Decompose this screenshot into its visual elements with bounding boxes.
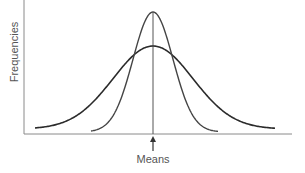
y-axis-label: Frequencies [8, 10, 20, 94]
wide-curve [35, 46, 275, 128]
narrow-curve [91, 12, 218, 131]
chart-canvas [0, 0, 305, 173]
means-label: Means [128, 153, 178, 165]
mean-arrow [150, 136, 156, 151]
